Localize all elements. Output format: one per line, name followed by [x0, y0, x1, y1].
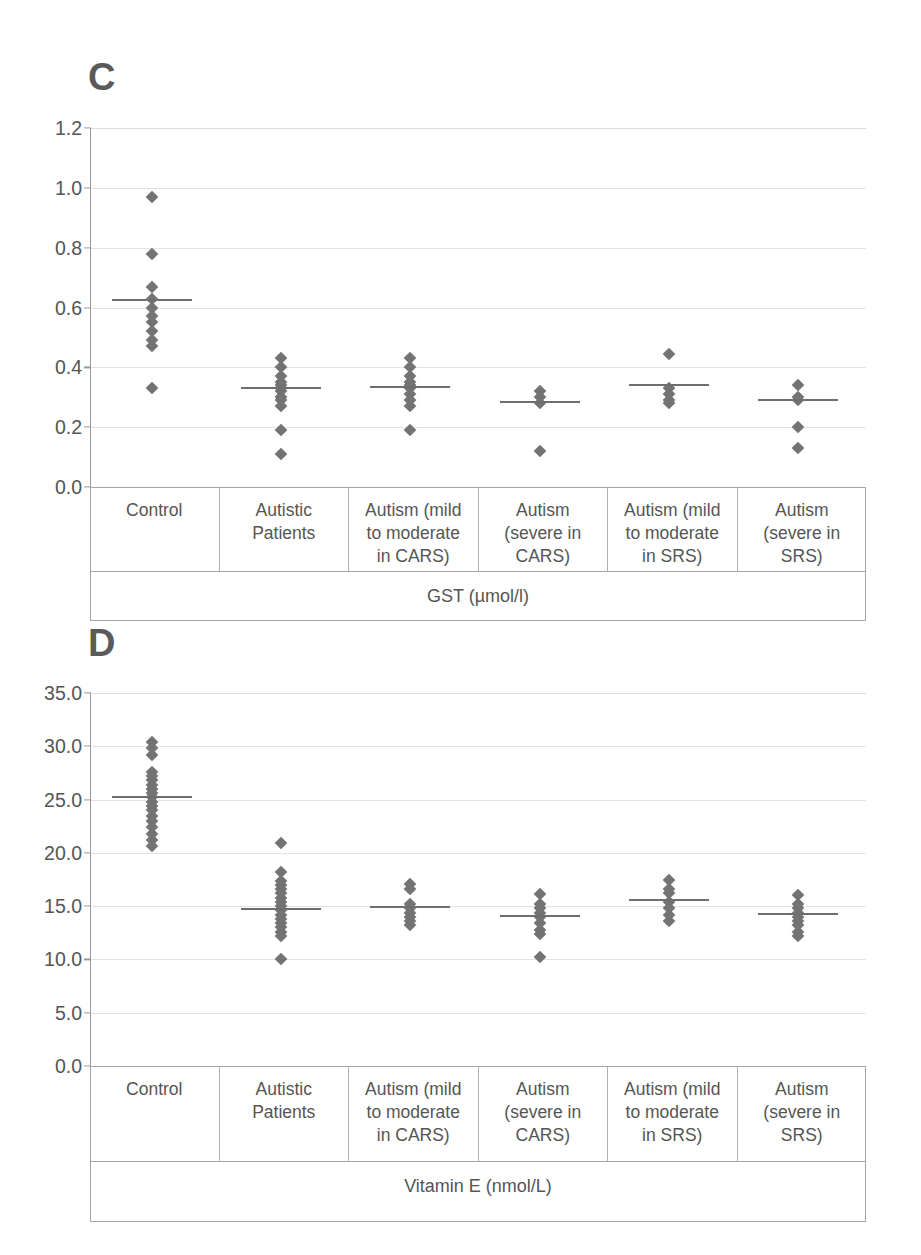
gridline [91, 853, 866, 854]
x-axis-category-label: Control [90, 488, 220, 571]
data-point-marker [145, 247, 158, 260]
y-tick-label: 15.0 [44, 895, 82, 918]
gridline [91, 427, 866, 428]
gridline [91, 959, 866, 960]
data-point-marker [663, 347, 676, 360]
gridline [91, 746, 866, 747]
gridline [91, 906, 866, 907]
x-axis-label-table-d: ControlAutistic PatientsAutism (mild to … [90, 1066, 866, 1162]
x-axis-category-label: Autism (mild to moderate in CARS) [349, 488, 479, 571]
gridline [91, 128, 866, 129]
gridline [91, 248, 866, 249]
x-axis-category-label: Autistic Patients [220, 488, 350, 571]
y-tick-label: 0.4 [55, 356, 82, 379]
x-axis-label-table-c: ControlAutistic PatientsAutism (mild to … [90, 487, 866, 572]
mean-line [500, 915, 580, 917]
y-tick-label: 0.6 [55, 296, 82, 319]
y-tick-label: 5.0 [55, 1001, 82, 1024]
x-axis-category-label: Autism (severe in CARS) [479, 1067, 609, 1161]
plot-area-d: 0.05.010.015.020.025.030.035.0 [90, 693, 866, 1066]
gridline [91, 188, 866, 189]
data-point-marker [145, 280, 158, 293]
x-axis-category-label: Autism (mild to moderate in CARS) [349, 1067, 479, 1161]
data-point-marker [145, 382, 158, 395]
panel-c: C 0.00.20.40.60.81.01.2 ControlAutistic … [0, 0, 921, 620]
mean-line [241, 908, 321, 910]
mean-line [370, 906, 450, 908]
data-point-marker [533, 951, 546, 964]
panel-d: D 0.05.010.015.020.025.030.035.0 Control… [0, 610, 921, 1255]
y-tick-mark [84, 852, 91, 853]
data-point-marker [792, 379, 805, 392]
panel-letter-d: D [88, 622, 115, 665]
panel-letter-c: C [88, 56, 115, 99]
mean-line [112, 299, 192, 301]
y-tick-mark [84, 746, 91, 747]
y-tick-label: 20.0 [44, 841, 82, 864]
gridline [91, 800, 866, 801]
y-tick-label: 10.0 [44, 948, 82, 971]
y-tick-mark [84, 906, 91, 907]
data-point-marker [145, 190, 158, 203]
y-tick-mark [84, 692, 91, 693]
data-point-marker [404, 400, 417, 413]
y-tick-mark [84, 799, 91, 800]
y-tick-mark [84, 187, 91, 188]
y-tick-label: 0.2 [55, 416, 82, 439]
plot-area-c: 0.00.20.40.60.81.01.2 [90, 128, 866, 487]
data-point-marker [275, 448, 288, 461]
data-point-marker [275, 953, 288, 966]
data-point-marker [275, 837, 288, 850]
x-axis-category-label: Autism (mild to moderate in SRS) [608, 1067, 738, 1161]
bottom-rail-d [90, 1221, 866, 1222]
data-point-marker [792, 442, 805, 455]
y-tick-mark [84, 367, 91, 368]
y-tick-label: 0.0 [55, 476, 82, 499]
mean-line [758, 399, 838, 401]
x-axis-category-label: Autistic Patients [220, 1067, 350, 1161]
y-tick-mark [84, 127, 91, 128]
axis-title-d: Vitamin E (nmol/L) [90, 1176, 866, 1197]
gridline [91, 367, 866, 368]
figure-root: C 0.00.20.40.60.81.01.2 ControlAutistic … [0, 0, 921, 1255]
axis-title-c: GST (µmol/l) [90, 586, 866, 607]
y-tick-label: 25.0 [44, 788, 82, 811]
y-tick-mark [84, 307, 91, 308]
y-tick-label: 35.0 [44, 682, 82, 705]
y-tick-mark [84, 1012, 91, 1013]
y-tick-label: 0.0 [55, 1055, 82, 1078]
y-tick-label: 0.8 [55, 236, 82, 259]
mean-line [241, 387, 321, 389]
mean-line [112, 796, 192, 798]
x-axis-category-label: Autism (severe in CARS) [479, 488, 609, 571]
y-tick-mark [84, 247, 91, 248]
gridline [91, 693, 866, 694]
y-tick-label: 30.0 [44, 735, 82, 758]
gridline [91, 308, 866, 309]
x-axis-category-label: Control [90, 1067, 220, 1161]
x-axis-category-label: Autism (mild to moderate in SRS) [608, 488, 738, 571]
y-tick-label: 1.2 [55, 117, 82, 140]
x-axis-category-label: Autism (severe in SRS) [738, 1067, 867, 1161]
mean-line [370, 386, 450, 388]
mean-line [500, 401, 580, 403]
y-tick-label: 1.0 [55, 176, 82, 199]
y-tick-mark [84, 427, 91, 428]
data-point-marker [275, 424, 288, 437]
y-tick-mark [84, 959, 91, 960]
data-point-marker [404, 424, 417, 437]
x-axis-category-label: Autism (severe in SRS) [738, 488, 867, 571]
gridline [91, 1013, 866, 1014]
mean-line [629, 384, 709, 386]
data-point-marker [533, 445, 546, 458]
data-point-marker [792, 421, 805, 434]
mean-line [629, 899, 709, 901]
mean-line [758, 913, 838, 915]
